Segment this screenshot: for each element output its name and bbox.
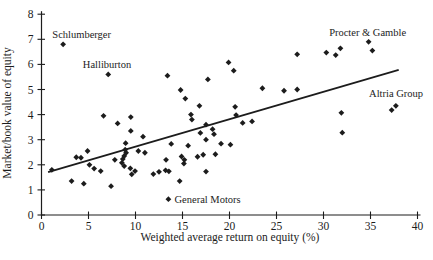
diamond-marker — [128, 114, 134, 120]
scatter-plot-figure: 0510152025303540012345678 SchlumbergerHa… — [0, 0, 433, 260]
x-tick-label: 0 — [39, 220, 45, 232]
diamond-marker — [181, 161, 187, 167]
company-label-procter-gamble: Procter & Gamble — [329, 27, 406, 38]
diamond-marker — [105, 72, 111, 78]
diamond-marker — [231, 68, 237, 74]
diamond-marker — [123, 140, 129, 146]
diamond-marker — [228, 142, 234, 148]
diamond-marker — [232, 104, 238, 110]
diamond-marker — [203, 169, 209, 175]
diamond-marker — [165, 73, 171, 79]
diamond-marker — [108, 183, 114, 189]
diamond-marker — [163, 157, 169, 163]
diamond-marker — [393, 103, 399, 109]
y-tick-label: 8 — [28, 8, 34, 20]
y-tick-label: 3 — [28, 134, 34, 146]
diamond-marker — [281, 88, 287, 94]
x-tick-label: 30 — [318, 220, 330, 232]
diamond-marker — [73, 154, 79, 160]
company-label-schlumberger: Schlumberger — [52, 29, 111, 40]
x-axis-title: Weighted average return on equity (%) — [141, 231, 320, 244]
diamond-marker — [81, 181, 87, 187]
diamond-marker — [177, 178, 183, 184]
diamond-marker — [213, 151, 219, 157]
diamond-marker — [210, 126, 216, 132]
diamond-marker — [142, 150, 148, 156]
diamond-marker — [197, 130, 203, 136]
diamond-marker — [156, 169, 162, 175]
y-axis-title: Market/book value of equity — [1, 47, 14, 179]
diamond-marker — [205, 77, 211, 83]
y-tick-label: 7 — [28, 33, 34, 45]
x-tick-label: 40 — [412, 220, 424, 232]
diamond-marker — [366, 39, 372, 45]
diamond-marker — [323, 50, 329, 56]
diamond-marker — [101, 113, 107, 119]
diamond-marker — [294, 87, 300, 93]
diamond-marker — [182, 96, 188, 102]
diamond-marker — [91, 166, 97, 172]
y-tick-label: 6 — [28, 58, 34, 70]
y-tick-label: 0 — [28, 209, 34, 221]
diamond-marker — [195, 154, 201, 160]
company-label-general-motors: General Motors — [175, 194, 241, 205]
diamond-marker — [112, 157, 118, 163]
diamond-marker — [188, 112, 194, 118]
y-tick-label: 1 — [28, 184, 34, 196]
diamond-marker — [203, 137, 209, 143]
trend-line — [48, 70, 399, 172]
company-label-altria-group: Altria Group — [369, 88, 423, 99]
diamond-marker — [60, 41, 66, 47]
x-tick-label: 35 — [365, 220, 377, 232]
y-tick-label: 2 — [28, 159, 34, 171]
regression-line — [48, 70, 399, 172]
y-tick-label: 4 — [28, 109, 34, 121]
diamond-marker — [338, 110, 344, 116]
diamond-marker — [115, 120, 121, 126]
diamond-marker — [260, 85, 266, 91]
diamond-marker — [166, 196, 172, 202]
diamond-marker — [168, 141, 174, 147]
diamond-marker — [200, 152, 206, 158]
y-tick-label: 5 — [28, 84, 34, 96]
diamond-marker — [85, 148, 91, 154]
diamond-marker — [197, 103, 203, 109]
diamond-marker — [150, 171, 156, 177]
diamond-marker — [294, 51, 300, 57]
diamond-marker — [127, 165, 133, 171]
diamond-marker — [218, 141, 224, 147]
diamond-marker — [135, 148, 141, 154]
diamond-marker — [339, 130, 345, 136]
market-book-vs-roe-scatter-chart: 0510152025303540012345678 SchlumbergerHa… — [0, 0, 433, 260]
diamond-marker — [226, 59, 232, 65]
diamond-marker — [185, 143, 191, 149]
diamond-marker — [98, 168, 104, 174]
diamond-marker — [369, 48, 375, 54]
x-tick-label: 5 — [86, 220, 92, 232]
diamond-marker — [338, 45, 344, 51]
company-label-halliburton: Halliburton — [83, 59, 132, 70]
diamond-marker — [333, 52, 339, 58]
diamond-marker — [87, 162, 93, 168]
diamond-marker — [389, 107, 395, 113]
diamond-marker — [69, 178, 75, 184]
diamond-marker — [78, 155, 84, 161]
diamond-marker — [140, 134, 146, 140]
diamond-marker — [189, 117, 195, 123]
diamond-marker — [211, 131, 217, 137]
diamond-marker — [128, 128, 134, 134]
diamond-marker — [240, 120, 246, 126]
diamond-marker — [178, 87, 184, 93]
diamond-marker — [249, 118, 255, 124]
